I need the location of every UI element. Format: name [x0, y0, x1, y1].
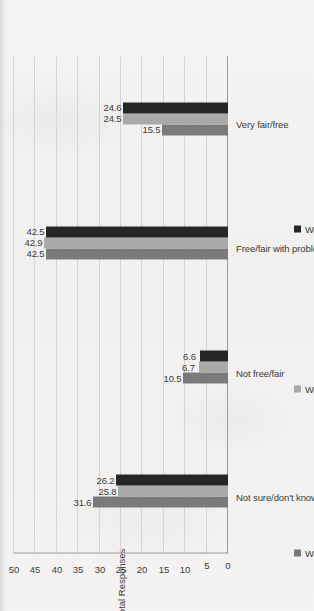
- chart-legend: Was GE14 conducted fairly?Was GE14 condu…: [294, 56, 312, 553]
- y-axis-tick-15: 15: [158, 563, 169, 574]
- y-axis-tick-50: 50: [9, 563, 20, 574]
- bar: 42.5: [46, 248, 228, 259]
- y-axis-tick-45: 45: [30, 563, 41, 574]
- bar-value-label: 25.8: [98, 485, 116, 496]
- x-axis-category-label: Very fair/free: [236, 118, 288, 129]
- y-axis-tick-35: 35: [73, 563, 84, 574]
- y-axis-tick-25: 25: [116, 563, 127, 574]
- legend-swatch-icon: [294, 549, 301, 556]
- bar-value-label: 24.6: [103, 102, 121, 113]
- bar-value-label: 10.5: [164, 372, 182, 383]
- bar-value-label: 42.5: [27, 248, 45, 259]
- bar-group: 31.625.826.2: [14, 474, 228, 507]
- bar: 31.6: [93, 496, 228, 507]
- bar: 15.5: [162, 124, 228, 135]
- bar-value-label: 42.9: [25, 237, 43, 248]
- y-axis-tick-label: 15: [159, 563, 170, 574]
- y-axis-tick-10: 10: [180, 563, 191, 574]
- bar-groups: 31.625.826.210.56.76.642.542.942.515.524…: [14, 56, 228, 553]
- y-axis-tick-30: 30: [94, 563, 105, 574]
- bar-group: 42.542.942.5: [14, 226, 228, 259]
- bar-value-label: 26.2: [96, 474, 114, 485]
- plot-area: 31.625.826.210.56.76.642.542.942.515.524…: [14, 56, 228, 553]
- legend-label: Was the Sabah State Election conducted f…: [305, 223, 314, 234]
- y-axis-tick-40: 40: [51, 563, 62, 574]
- y-axis-tick-label: 5: [204, 560, 209, 571]
- legend-swatch-icon: [294, 385, 301, 392]
- y-axis-tick-label: 20: [137, 563, 148, 574]
- bar-group: 15.524.524.6: [14, 102, 228, 135]
- y-axis-ticks: 05101520253035404550: [14, 557, 228, 611]
- y-axis-tick-label: 25: [116, 563, 127, 574]
- y-axis-tick-20: 20: [137, 563, 148, 574]
- y-axis-tick-0: 0: [223, 563, 234, 568]
- bar: 42.9: [44, 237, 228, 248]
- legend-label: Was GE14 conducted fairly?: [305, 547, 314, 558]
- bar: 42.5: [46, 226, 228, 237]
- bar: 10.5: [183, 372, 228, 383]
- x-axis-category-label: Not free/fair: [236, 367, 284, 378]
- bar: 6.7: [199, 361, 228, 372]
- bar-value-label: 15.5: [142, 124, 160, 135]
- bar-value-label: 6.6: [183, 350, 196, 361]
- y-axis-tick-label: 30: [94, 563, 105, 574]
- y-axis-tick-5: 5: [201, 563, 212, 568]
- y-axis-tick-label: 50: [9, 563, 20, 574]
- bar-chart: % of Total Responses 0510152025303540455…: [0, 0, 314, 611]
- y-axis-tick-label: 40: [52, 563, 63, 574]
- bar-group: 10.56.76.6: [14, 350, 228, 383]
- bar-value-label: 31.6: [73, 496, 91, 507]
- y-axis-tick-label: 10: [180, 563, 191, 574]
- bar: 6.6: [200, 350, 228, 361]
- bar-value-label: 42.5: [27, 226, 45, 237]
- y-axis-tick-label: 35: [73, 563, 84, 574]
- legend-label: Was GE14 conducted freely?: [305, 383, 314, 394]
- bar: 24.5: [123, 113, 228, 124]
- bar: 25.8: [118, 485, 228, 496]
- bar-value-label: 24.5: [104, 113, 122, 124]
- y-axis-tick-label: 45: [30, 563, 41, 574]
- bar-value-label: 6.7: [182, 361, 195, 372]
- legend-swatch-icon: [294, 225, 301, 232]
- y-axis-tick-label: 0: [225, 560, 230, 571]
- bar: 24.6: [123, 102, 228, 113]
- bar: 26.2: [116, 474, 228, 485]
